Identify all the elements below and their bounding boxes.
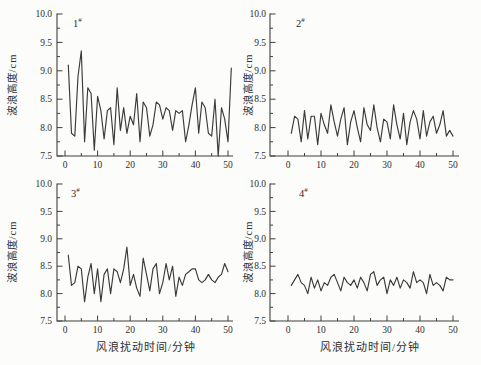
subplot-1-plot: 7.58.08.59.09.510.001020304050	[0, 0, 240, 178]
y-tick-label: 7.5	[254, 151, 266, 161]
y-tick-label: 9.5	[40, 38, 52, 48]
subplot-label: 2#	[296, 14, 305, 30]
y-axis-title: 波浪高度/cm	[240, 54, 255, 117]
x-tick-label: 30	[158, 160, 168, 170]
x-tick-label: 10	[316, 325, 326, 335]
y-tick-label: 8.0	[40, 289, 52, 299]
y-tick-label: 8.0	[40, 123, 52, 133]
y-axis-title: 波浪高度/cm	[4, 54, 19, 117]
y-tick-label: 10.0	[35, 179, 52, 189]
x-tick-label: 10	[93, 325, 103, 335]
x-tick-label: 0	[63, 325, 68, 335]
x-tick-label: 30	[158, 325, 168, 335]
x-tick-label: 30	[382, 160, 392, 170]
y-tick-label: 10.0	[249, 9, 266, 19]
x-tick-label: 20	[349, 160, 359, 170]
x-tick-label: 0	[286, 160, 291, 170]
subplot-1: 7.58.08.59.09.510.001020304050 波浪高度/cm 1…	[0, 0, 240, 178]
y-tick-label: 10.0	[35, 9, 52, 19]
y-tick-label: 9.5	[254, 38, 266, 48]
x-tick-label: 0	[286, 325, 291, 335]
x-tick-label: 20	[349, 325, 359, 335]
x-tick-label: 40	[415, 160, 425, 170]
y-tick-label: 8.5	[40, 94, 52, 104]
series-line	[291, 272, 453, 294]
y-tick-label: 7.5	[254, 316, 266, 326]
y-tick-label: 9.0	[40, 234, 52, 244]
y-tick-label: 8.5	[254, 94, 266, 104]
y-tick-label: 10.0	[249, 179, 266, 189]
x-tick-label: 50	[223, 160, 233, 170]
y-axis-title: 波浪高度/cm	[240, 221, 255, 284]
x-axis-title: 风浪扰动时间/分钟	[96, 338, 196, 354]
x-tick-label: 40	[191, 325, 201, 335]
y-tick-label: 7.5	[40, 151, 52, 161]
subplot-4: 7.58.08.59.09.510.001020304050 波浪高度/cm 风…	[240, 178, 481, 365]
x-tick-label: 20	[125, 160, 135, 170]
subplot-label: 4#	[299, 184, 308, 200]
axis-spines	[270, 14, 459, 157]
subplot-label: 3#	[71, 184, 80, 200]
y-tick-label: 8.5	[254, 261, 266, 271]
subplot-2-plot: 7.58.08.59.09.510.001020304050	[240, 0, 481, 178]
subplot-grid: 7.58.08.59.09.510.001020304050 波浪高度/cm 1…	[0, 0, 481, 365]
subplot-3-plot: 7.58.08.59.09.510.001020304050	[0, 178, 240, 365]
y-tick-label: 9.5	[40, 207, 52, 217]
y-tick-label: 9.0	[40, 66, 52, 76]
y-tick-label: 9.0	[254, 66, 266, 76]
subplot-2: 7.58.08.59.09.510.001020304050 波浪高度/cm 2…	[240, 0, 481, 178]
y-tick-label: 9.5	[254, 207, 266, 217]
y-tick-label: 8.0	[254, 123, 266, 133]
figure: 7.58.08.59.09.510.001020304050 波浪高度/cm 1…	[0, 0, 481, 365]
series-line	[68, 51, 231, 156]
x-tick-label: 30	[382, 325, 392, 335]
series-line	[68, 247, 228, 302]
x-tick-label: 10	[316, 160, 326, 170]
y-tick-label: 7.5	[40, 316, 52, 326]
series-line	[291, 105, 453, 145]
subplot-3: 7.58.08.59.09.510.001020304050 波浪高度/cm 风…	[0, 178, 240, 365]
y-tick-label: 8.0	[254, 289, 266, 299]
y-tick-label: 9.0	[254, 234, 266, 244]
axis-spines	[57, 184, 233, 322]
subplot-4-plot: 7.58.08.59.09.510.001020304050	[240, 178, 481, 365]
tick-labels: 7.58.08.59.09.510.001020304050	[249, 9, 458, 170]
tick-labels: 7.58.08.59.09.510.001020304050	[35, 179, 233, 335]
x-tick-label: 40	[415, 325, 425, 335]
x-axis-title: 风浪扰动时间/分钟	[320, 338, 420, 354]
tick-labels: 7.58.08.59.09.510.001020304050	[249, 179, 458, 335]
tick-marks	[57, 184, 228, 321]
x-tick-label: 10	[93, 160, 103, 170]
x-tick-label: 50	[448, 160, 458, 170]
tick-marks	[270, 184, 453, 321]
tick-labels: 7.58.08.59.09.510.001020304050	[35, 9, 233, 170]
x-tick-label: 0	[63, 160, 68, 170]
x-tick-label: 50	[223, 325, 233, 335]
x-tick-label: 40	[191, 160, 201, 170]
x-tick-label: 50	[448, 325, 458, 335]
y-tick-label: 8.5	[40, 261, 52, 271]
axis-spines	[57, 14, 233, 157]
y-axis-title: 波浪高度/cm	[4, 221, 19, 284]
subplot-label: 1#	[73, 14, 82, 30]
axis-spines	[270, 184, 459, 322]
x-tick-label: 20	[125, 325, 135, 335]
